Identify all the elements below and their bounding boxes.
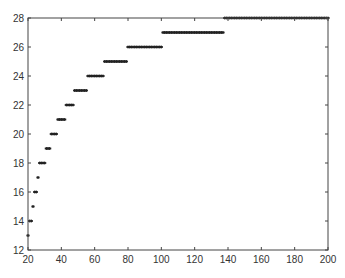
y-tick-label: 24 [13,71,25,82]
x-tick-label: 40 [56,254,68,265]
chart: 20406080100120140160180200 1214161820222… [0,0,345,278]
y-tick-label: 22 [13,100,25,111]
tick-marks [28,18,328,250]
y-tick-label: 14 [13,216,25,227]
x-tick-label: 180 [286,254,303,265]
x-tick-label: 120 [186,254,203,265]
x-tick-label: 60 [89,254,101,265]
data-point [31,205,34,208]
x-tick-label: 200 [320,254,337,265]
y-tick-label: 26 [13,42,25,53]
x-tick-label: 140 [220,254,237,265]
y-tick-label: 18 [13,158,25,169]
x-tick-label: 160 [253,254,270,265]
plot-area-frame [28,18,328,250]
x-tick-label: 80 [122,254,134,265]
data-point [36,176,39,179]
x-tick-label: 20 [22,254,34,265]
y-tick-label: 12 [13,245,25,256]
data-points [26,17,329,237]
x-tick-label: 100 [153,254,170,265]
y-axis-tick-labels: 121416182022242628 [13,13,25,256]
y-tick-label: 16 [13,187,25,198]
y-tick-label: 28 [13,13,25,24]
x-axis-tick-labels: 20406080100120140160180200 [22,254,336,265]
y-tick-label: 20 [13,129,25,140]
